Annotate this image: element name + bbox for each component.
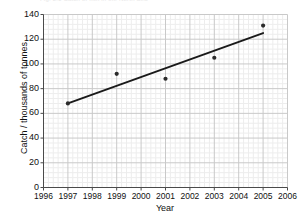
x-tick-label: 1998 xyxy=(79,191,105,201)
x-tick-label: 2004 xyxy=(226,191,252,201)
x-tick-label: 2001 xyxy=(153,191,179,201)
x-tick-label: 2000 xyxy=(128,191,154,201)
x-tick-label: 2003 xyxy=(201,191,227,201)
y-tick-label: 140 xyxy=(8,9,39,19)
scatter-plot-canvas xyxy=(0,0,298,215)
x-tick-label: 2005 xyxy=(250,191,276,201)
x-tick-label: 1997 xyxy=(55,191,81,201)
x-tick-label: 1996 xyxy=(31,191,57,201)
chart-container: Fig. 2.1 Catch of fish in the North Sea … xyxy=(0,0,298,215)
y-tick-label: 60 xyxy=(8,107,39,117)
y-tick-label: 120 xyxy=(8,33,39,43)
y-tick-label: 100 xyxy=(8,58,39,68)
y-tick-label: 80 xyxy=(8,83,39,93)
x-tick-label: 1999 xyxy=(104,191,130,201)
y-tick-label: 40 xyxy=(8,132,39,142)
x-axis-title: Year xyxy=(43,203,287,213)
x-tick-label: 2006 xyxy=(275,191,299,201)
y-tick-label: 20 xyxy=(8,157,39,167)
x-tick-label: 2002 xyxy=(177,191,203,201)
y-tick-label: 0 xyxy=(8,182,39,192)
major-gridlines xyxy=(44,15,288,188)
